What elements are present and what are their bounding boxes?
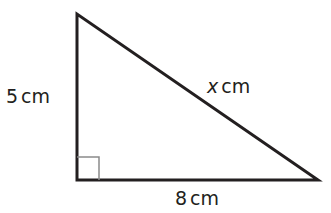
triangle — [77, 14, 318, 180]
vertical-side-label: 5cm — [6, 87, 50, 106]
hypotenuse-unit: cm — [221, 75, 250, 97]
vertical-side-value: 5 — [6, 85, 18, 107]
horizontal-side-label: 8cm — [175, 189, 219, 208]
hypotenuse-label: xcm — [207, 77, 250, 96]
horizontal-side-unit: cm — [190, 187, 219, 209]
hypotenuse-variable: x — [207, 75, 218, 97]
right-angle-marker — [77, 157, 99, 180]
horizontal-side-value: 8 — [175, 187, 187, 209]
vertical-side-unit: cm — [21, 85, 50, 107]
